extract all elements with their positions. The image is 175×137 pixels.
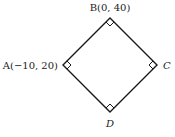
vertex-label-d: D <box>105 118 114 129</box>
right-angle-marker-b <box>106 22 114 26</box>
square-diagram: B(0, 40) A(−10, 20) C D <box>0 0 175 137</box>
vertex-label-b: B(0, 40) <box>90 2 131 13</box>
square-abcd <box>63 18 157 112</box>
right-angle-marker-d <box>106 104 114 108</box>
right-angle-marker-a <box>67 61 71 69</box>
right-angle-marker-c <box>149 61 153 69</box>
vertex-label-c: C <box>163 60 171 71</box>
vertex-label-a: A(−10, 20) <box>2 60 58 71</box>
